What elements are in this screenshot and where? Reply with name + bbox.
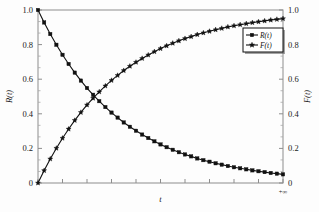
marker-star xyxy=(183,36,188,41)
marker-star xyxy=(201,30,206,35)
legend-label-0: R(t) xyxy=(259,31,272,40)
marker-star xyxy=(48,156,53,161)
marker-square xyxy=(110,111,113,114)
marker-square xyxy=(67,62,70,65)
marker-square xyxy=(257,170,260,173)
marker-star xyxy=(281,16,286,21)
legend-label-1: F(t) xyxy=(259,41,272,50)
marker-square xyxy=(98,99,101,102)
y-axis-label-right: F(t) xyxy=(302,90,312,104)
marker-square xyxy=(226,164,229,167)
marker-square xyxy=(177,151,180,154)
reliability-failure-chart: 000.20.20.40.40.60.60.80.81.01.0t+∞R(t)F… xyxy=(0,0,319,212)
y-tick-label-right: 1.0 xyxy=(288,5,299,15)
marker-star xyxy=(274,17,279,22)
marker-star xyxy=(195,32,200,37)
marker-star xyxy=(250,20,255,25)
marker-square xyxy=(61,53,64,56)
marker-star xyxy=(42,168,47,173)
marker-square xyxy=(196,157,199,160)
marker-square xyxy=(245,168,248,171)
marker-star xyxy=(164,43,169,48)
marker-square xyxy=(281,173,284,176)
marker-square xyxy=(116,116,119,119)
marker-square xyxy=(85,86,88,89)
marker-star xyxy=(256,19,261,24)
marker-square xyxy=(134,129,137,132)
marker-star xyxy=(268,17,273,22)
y-tick-label-left: 0.8 xyxy=(22,40,33,50)
marker-square xyxy=(220,163,223,166)
y-tick-label-right: 0 xyxy=(288,178,292,188)
marker-square xyxy=(159,143,162,146)
x-axis-label: t xyxy=(159,194,162,204)
marker-star xyxy=(238,22,243,27)
marker-square xyxy=(251,169,254,172)
marker-star xyxy=(219,26,224,31)
y-axis-label-left: R(t) xyxy=(4,90,14,104)
marker-square xyxy=(79,79,82,82)
y-tick-label-left: 0.4 xyxy=(22,109,33,119)
marker-square xyxy=(165,145,168,148)
marker-square xyxy=(122,121,125,124)
marker-star xyxy=(36,180,41,185)
marker-star xyxy=(225,24,230,29)
y-tick-label-left: 0.6 xyxy=(22,74,33,84)
marker-square xyxy=(238,167,241,170)
y-tick-label-left: 0.2 xyxy=(22,143,33,153)
marker-square xyxy=(49,32,52,35)
marker-square xyxy=(269,171,272,174)
marker-square xyxy=(232,166,235,169)
marker-square xyxy=(140,133,143,136)
marker-star xyxy=(170,41,175,46)
marker-square xyxy=(153,140,156,143)
marker-square xyxy=(183,153,186,156)
marker-square xyxy=(128,125,131,128)
marker-square xyxy=(73,71,76,74)
marker-square xyxy=(42,21,45,24)
marker-star xyxy=(176,38,181,43)
marker-square xyxy=(171,148,174,151)
y-tick-label-right: 0.8 xyxy=(288,40,299,50)
y-tick-label-right: 0.4 xyxy=(288,109,299,119)
marker-square xyxy=(147,136,150,139)
y-tick-label-right: 0.2 xyxy=(288,143,299,153)
y-tick-label-right: 0.6 xyxy=(288,74,299,84)
marker-star xyxy=(213,27,218,32)
x-axis-end-label: +∞ xyxy=(279,188,288,195)
marker-star xyxy=(262,18,267,23)
marker-square xyxy=(189,155,192,158)
marker-star xyxy=(189,34,194,39)
figure-container: 000.20.20.40.40.60.60.80.81.01.0t+∞R(t)F… xyxy=(0,0,319,212)
marker-square xyxy=(55,43,58,46)
marker-square xyxy=(214,162,217,165)
marker-square xyxy=(202,158,205,161)
marker-star xyxy=(207,29,212,34)
marker-star xyxy=(232,23,237,28)
marker-square xyxy=(275,172,278,175)
marker-square xyxy=(208,160,211,163)
marker-square xyxy=(36,8,39,11)
marker-square xyxy=(250,33,253,36)
marker-square xyxy=(263,170,266,173)
y-tick-label-left: 1.0 xyxy=(22,5,33,15)
marker-square xyxy=(104,105,107,108)
marker-star xyxy=(244,21,249,26)
y-tick-label-left: 0 xyxy=(29,178,33,188)
